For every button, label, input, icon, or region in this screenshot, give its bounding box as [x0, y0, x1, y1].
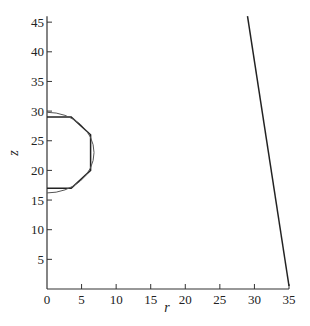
x-tick-label: 25	[213, 292, 226, 307]
y-axis-title: z	[6, 150, 21, 157]
plot-area	[47, 16, 289, 286]
series-arc	[47, 112, 94, 193]
x-axis-title: r	[164, 300, 170, 315]
x-tick-label: 0	[44, 292, 51, 307]
x-tick-label: 30	[248, 292, 261, 307]
x-tick-label: 15	[144, 292, 157, 307]
y-tick-label: 35	[31, 74, 44, 89]
x-tick-label: 20	[179, 292, 192, 307]
y-tick-label: 5	[38, 252, 45, 267]
y-tick-label: 25	[31, 133, 44, 148]
axes: 0510152025303551015202530354045	[31, 15, 296, 307]
series-line	[248, 16, 290, 286]
y-tick-label: 40	[31, 44, 44, 59]
x-tick-label: 5	[78, 292, 85, 307]
x-tick-label: 35	[283, 292, 296, 307]
y-tick-label: 30	[31, 104, 44, 119]
y-tick-label: 45	[31, 15, 44, 30]
x-tick-label: 10	[110, 292, 123, 307]
chart: 0510152025303551015202530354045 r z	[0, 0, 310, 326]
y-tick-label: 20	[31, 163, 44, 178]
y-tick-label: 15	[31, 193, 44, 208]
y-tick-label: 10	[31, 222, 44, 237]
